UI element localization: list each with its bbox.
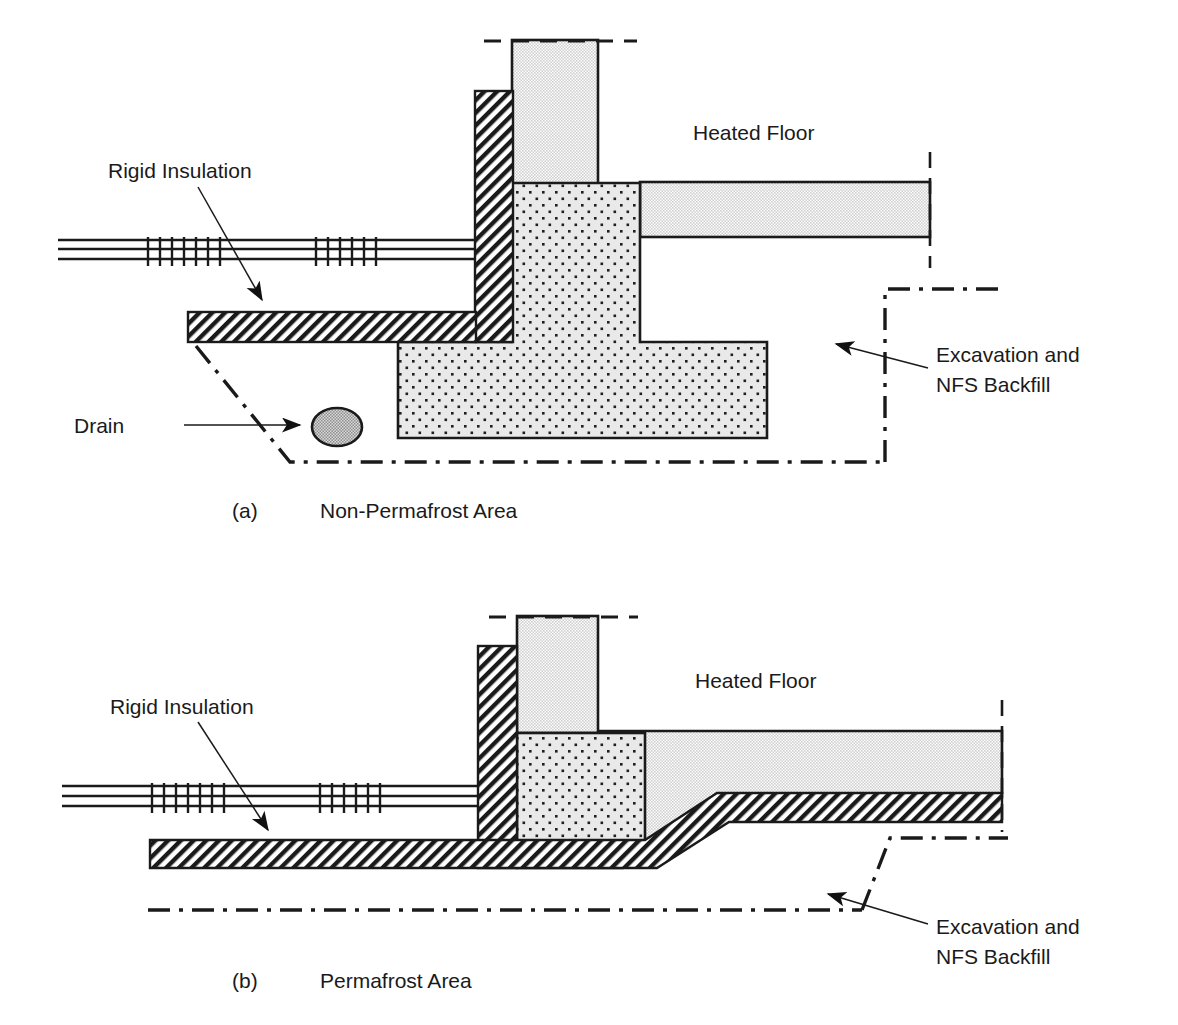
label-heated-floor-a: Heated Floor [693,121,814,144]
label-excavation-line1-b: Excavation and [936,915,1080,938]
caption-index-a: (a) [232,499,258,522]
caption-title-b: Permafrost Area [320,969,472,992]
label-rigid-insulation-b: Rigid Insulation [110,695,254,718]
caption-title-a: Non-Permafrost Area [320,499,518,522]
label-excavation-line2-b: NFS Backfill [936,945,1050,968]
label-excavation-line1-a: Excavation and [936,343,1080,366]
caption-index-b: (b) [232,969,258,992]
label-drain-a: Drain [74,414,124,437]
exterior-rigid-insulation-b [478,646,517,868]
perimeter-drain-a [312,408,362,446]
label-rigid-insulation-a: Rigid Insulation [108,159,252,182]
foundation-detail-figure: Rigid Insulation Drain Heated Floor Exca… [0,0,1178,1025]
horizontal-rigid-insulation-a [188,312,476,342]
heated-floor-slab-a [640,182,930,237]
exterior-rigid-insulation-a [475,91,513,342]
label-excavation-line2-a: NFS Backfill [936,373,1050,396]
foundation-wall-b [517,616,598,733]
figure-canvas: Rigid Insulation Drain Heated Floor Exca… [0,0,1178,1025]
label-heated-floor-b: Heated Floor [695,669,816,692]
